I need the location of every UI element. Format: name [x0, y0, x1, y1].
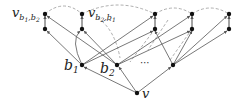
node-col1-bottom	[43, 27, 47, 31]
edge-b3-col4bot	[173, 31, 192, 65]
edge-v-b2	[119, 67, 137, 93]
node-col3-top	[153, 12, 157, 16]
dashed-arc-3	[155, 8, 192, 14]
node-col5-bottom	[227, 27, 231, 31]
dashed-arc-1	[45, 6, 82, 14]
node-col2-top	[80, 12, 84, 16]
edge-b3-col3bot	[155, 31, 173, 65]
dashed-arc-4	[192, 8, 229, 14]
solid-edges	[47, 16, 227, 93]
ellipsis-middle: ⋯	[140, 57, 150, 68]
node-col4-bottom	[190, 27, 194, 31]
node-b1	[80, 63, 84, 67]
edge-b2-col4top	[117, 16, 190, 65]
label-v-b2-b1: vb2,b1	[88, 5, 116, 23]
graph-diagram: vb1,b2 vb2,b1 b1 b2 v ⋯ ⋯	[0, 0, 246, 102]
ellipsis-top: ⋯	[103, 16, 111, 25]
node-b2	[115, 63, 119, 67]
node-col4-top	[190, 12, 194, 16]
label-v: v	[142, 86, 150, 101]
label-b2: b2	[100, 60, 115, 78]
node-col3-bottom	[153, 27, 157, 31]
edge-b3-col5top	[173, 16, 227, 65]
label-v-b1-b2: vb1,b2	[12, 5, 40, 23]
node-col5-top	[227, 12, 231, 16]
edge-b3-col5bot	[173, 31, 227, 65]
node-b3	[171, 63, 175, 67]
node-col1-top	[43, 12, 47, 16]
node-col2-bottom	[80, 27, 84, 31]
nodes	[43, 12, 231, 95]
node-v	[135, 91, 139, 95]
